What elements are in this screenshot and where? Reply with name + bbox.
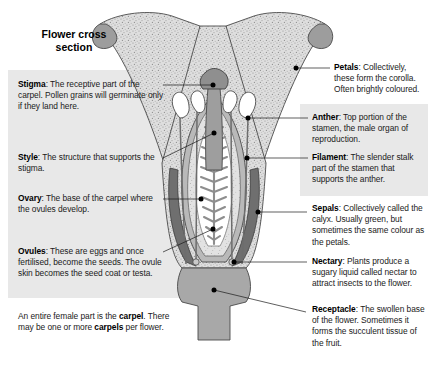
ovules (201, 124, 227, 244)
ovary-wall-inner (188, 104, 241, 256)
receptacle (178, 268, 251, 340)
figure-title: Flower cross section (14, 28, 134, 54)
label-sepals: Sepals: Collectively called the calyx. U… (312, 203, 428, 248)
figure-caption: An entire female part is the carpel. The… (18, 311, 186, 333)
callout-dot-nectary (232, 260, 237, 265)
label-nectary-term: Nectary (312, 256, 342, 266)
label-filament: Filament: The slender stalk part of the … (312, 152, 426, 186)
caption-bold-2: carpels (94, 322, 123, 332)
callout-dot-stigma (211, 83, 216, 88)
callout-dot-receptacle (212, 288, 217, 293)
label-filament-term: Filament (312, 152, 346, 162)
callout-dot-filament (245, 156, 250, 161)
label-petals-term: Petals (334, 62, 358, 72)
label-style-text: : The structure that supports the stigma… (18, 152, 155, 173)
caption-part-3: per flower. (123, 322, 163, 332)
callout-dot-ovules (211, 227, 216, 232)
label-ovary: Ovary: The base of the carpel where the … (18, 193, 164, 215)
figure-title-line1: Flower cross (42, 28, 107, 40)
label-style-term: Style (18, 152, 38, 162)
label-sepals-term: Sepals (312, 203, 339, 213)
label-petals: Petals: Collectively, these form the cor… (334, 62, 428, 96)
callout-dot-style (212, 131, 217, 136)
label-ovary-term: Ovary (18, 193, 42, 203)
figure-title-line2: section (56, 41, 93, 53)
filaments (180, 112, 248, 264)
ovary-cavity (196, 118, 232, 246)
carpel-wall (182, 96, 247, 262)
stigma (200, 68, 228, 89)
callout-dot-sepals (256, 210, 261, 215)
callout-dot-anther (246, 116, 251, 121)
label-stigma: Stigma: The receptive part of the carpel… (18, 79, 166, 113)
style (206, 88, 223, 170)
label-ovules-term: Ovules (18, 246, 46, 256)
flower-cross-section-figure: Flower cross section Stigma: The recepti… (0, 0, 428, 380)
label-style: Style: The structure that supports the s… (18, 152, 170, 174)
label-nectary: Nectary: Plants produce a sugary liquid … (312, 256, 426, 290)
label-stigma-term: Stigma (18, 79, 46, 89)
nectary (193, 259, 235, 265)
label-ovules: Ovules: These are eggs and once fertilis… (18, 246, 168, 280)
callout-dot-ovary (199, 197, 204, 202)
label-receptacle-term: Receptacle (312, 304, 356, 314)
label-anther: Anther: Top portion of the stamen, the m… (312, 112, 424, 146)
caption-part-1: An entire female part is the (18, 311, 119, 321)
caption-bold-1: carpel (119, 311, 143, 321)
label-receptacle: Receptacle: The swollen base of the flow… (312, 304, 428, 349)
label-anther-term: Anther (312, 112, 339, 122)
callout-dot-petals (294, 66, 299, 71)
